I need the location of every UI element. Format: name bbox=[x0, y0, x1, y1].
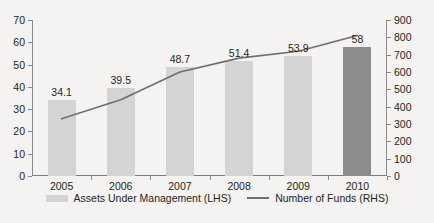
bar bbox=[166, 67, 194, 176]
y-axis-left-tick-label: 40 bbox=[13, 82, 25, 92]
y-axis-right-tick-label: 300 bbox=[394, 119, 412, 129]
chart-legend: Assets Under Management (LHS) Number of … bbox=[0, 192, 434, 204]
y-axis-right-tick-label: 500 bbox=[394, 84, 412, 94]
y-axis-right-tick bbox=[387, 37, 391, 38]
bar-value-label: 58 bbox=[352, 33, 364, 45]
y-axis-left-tick bbox=[28, 87, 32, 88]
y-axis-left-tick bbox=[28, 131, 32, 132]
y-axis-right-tick bbox=[387, 124, 391, 125]
x-axis-label: 2008 bbox=[227, 180, 250, 192]
x-axis-label: 2005 bbox=[50, 180, 73, 192]
y-axis-right-tick bbox=[387, 20, 391, 21]
y-axis-left-tick-label: 30 bbox=[13, 104, 25, 114]
line-series bbox=[32, 20, 387, 176]
x-axis-label: 2007 bbox=[168, 180, 191, 192]
bar-value-label: 51.4 bbox=[229, 47, 249, 59]
x-axis-label: 2009 bbox=[287, 180, 310, 192]
x-axis-tick bbox=[150, 176, 151, 180]
y-axis-right-tick-label: 600 bbox=[394, 67, 412, 77]
legend-item-number-of-funds: Number of Funds (RHS) bbox=[247, 192, 388, 204]
bar-value-label: 53.9 bbox=[288, 42, 308, 54]
line-swatch-icon bbox=[247, 197, 269, 199]
bar bbox=[48, 100, 76, 176]
chart-container: 010203040506070 010020030040050060070080… bbox=[0, 0, 434, 223]
x-axis-label: 2010 bbox=[346, 180, 369, 192]
y-axis-left-tick-label: 70 bbox=[13, 15, 25, 25]
y-axis-left-tick bbox=[28, 65, 32, 66]
y-axis-right-line bbox=[386, 20, 387, 176]
y-axis-right-tick bbox=[387, 55, 391, 56]
y-axis-left-tick-label: 50 bbox=[13, 60, 25, 70]
y-axis-left-tick bbox=[28, 42, 32, 43]
y-axis-right-tick-label: 100 bbox=[394, 154, 412, 164]
y-axis-right-tick-label: 0 bbox=[394, 171, 400, 181]
legend-label-assets-under-management: Assets Under Management (LHS) bbox=[74, 192, 232, 204]
x-axis-tick bbox=[328, 176, 329, 180]
x-axis-tick bbox=[210, 176, 211, 180]
y-axis-right-tick-label: 200 bbox=[394, 136, 412, 146]
y-axis-right-tick bbox=[387, 72, 391, 73]
bar-value-label: 39.5 bbox=[111, 74, 131, 86]
y-axis-left-tick-label: 60 bbox=[13, 37, 25, 47]
legend-label-number-of-funds: Number of Funds (RHS) bbox=[275, 192, 388, 204]
plot-area: 010203040506070 010020030040050060070080… bbox=[32, 20, 387, 176]
y-axis-right-tick bbox=[387, 159, 391, 160]
legend-item-assets-under-management: Assets Under Management (LHS) bbox=[46, 192, 232, 204]
y-axis-left-tick bbox=[28, 109, 32, 110]
y-axis-right-tick-label: 700 bbox=[394, 50, 412, 60]
y-axis-right-tick bbox=[387, 141, 391, 142]
y-axis-left-tick bbox=[28, 154, 32, 155]
x-axis-tick bbox=[387, 176, 388, 180]
y-axis-right-tick-label: 800 bbox=[394, 32, 412, 42]
bar-swatch-icon bbox=[46, 195, 68, 202]
bar-value-label: 34.1 bbox=[51, 86, 71, 98]
bar bbox=[284, 56, 312, 176]
y-axis-right-tick bbox=[387, 107, 391, 108]
bar-value-label: 48.7 bbox=[170, 53, 190, 65]
x-axis-tick bbox=[91, 176, 92, 180]
y-axis-left-tick-label: 20 bbox=[13, 126, 25, 136]
y-axis-left-line bbox=[32, 20, 33, 176]
bar bbox=[107, 88, 135, 176]
bar bbox=[343, 47, 371, 176]
x-axis-tick bbox=[269, 176, 270, 180]
x-axis-label: 2006 bbox=[109, 180, 132, 192]
bar bbox=[225, 61, 253, 176]
y-axis-right-tick-label: 900 bbox=[394, 15, 412, 25]
y-axis-left-tick bbox=[28, 176, 32, 177]
y-axis-right-tick bbox=[387, 89, 391, 90]
y-axis-left-tick-label: 0 bbox=[19, 171, 25, 181]
y-axis-right-tick-label: 400 bbox=[394, 102, 412, 112]
y-axis-left-tick-label: 10 bbox=[13, 149, 25, 159]
y-axis-left-tick bbox=[28, 20, 32, 21]
